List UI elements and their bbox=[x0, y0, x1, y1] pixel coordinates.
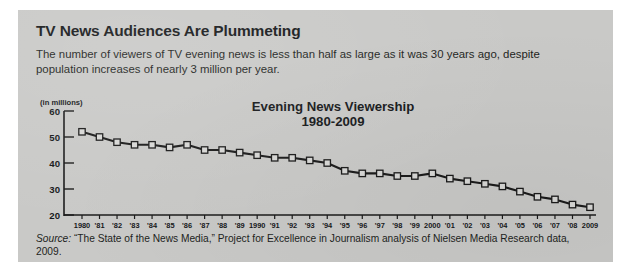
data-point-marker bbox=[236, 149, 242, 155]
data-point-marker bbox=[149, 142, 155, 148]
y-tick-label: 60 bbox=[38, 106, 60, 117]
x-tick-label: '01 bbox=[445, 221, 455, 230]
x-tick-label: '99 bbox=[410, 221, 420, 230]
x-tick-label: '82 bbox=[112, 221, 122, 230]
x-tick-label: '06 bbox=[532, 221, 542, 230]
data-point-marker bbox=[289, 155, 295, 161]
data-point-marker bbox=[534, 194, 540, 200]
x-tick-label: '07 bbox=[550, 221, 560, 230]
data-point-marker bbox=[412, 173, 418, 179]
data-point-marker bbox=[271, 155, 277, 161]
source-label: Source: bbox=[36, 233, 71, 244]
source-text: “The State of the News Media,” Project f… bbox=[36, 233, 569, 257]
infographic-panel: TV News Audiences Are Plummeting The num… bbox=[18, 10, 613, 262]
x-tick-label: 2009 bbox=[582, 221, 598, 230]
y-tick-label: 20 bbox=[38, 210, 60, 221]
x-tick-label: '85 bbox=[165, 221, 175, 230]
x-tick-label: '89 bbox=[235, 221, 245, 230]
x-tick-label: '98 bbox=[392, 221, 402, 230]
x-tick-label: '93 bbox=[305, 221, 315, 230]
data-point-marker bbox=[184, 142, 190, 148]
data-point-marker bbox=[569, 201, 575, 207]
data-point-marker bbox=[447, 175, 453, 181]
data-point-marker bbox=[79, 129, 85, 135]
x-tick-label: 2000 bbox=[424, 221, 440, 230]
data-point-marker bbox=[394, 173, 400, 179]
data-point-marker bbox=[219, 147, 225, 153]
x-tick-label: '08 bbox=[567, 221, 577, 230]
x-tick-label: '05 bbox=[515, 221, 525, 230]
x-tick-label: 1990 bbox=[249, 221, 265, 230]
data-point-marker bbox=[324, 160, 330, 166]
x-tick-label: '95 bbox=[340, 221, 350, 230]
data-point-marker bbox=[307, 157, 313, 163]
data-point-marker bbox=[587, 204, 593, 210]
x-tick-label: '83 bbox=[130, 221, 140, 230]
data-point-marker bbox=[131, 142, 137, 148]
x-tick-label: '96 bbox=[357, 221, 367, 230]
data-point-marker bbox=[517, 188, 523, 194]
x-tick-label: '87 bbox=[200, 221, 210, 230]
data-point-marker bbox=[254, 152, 260, 158]
data-point-marker bbox=[166, 144, 172, 150]
data-point-marker bbox=[201, 147, 207, 153]
x-tick-label: '81 bbox=[95, 221, 105, 230]
y-tick-label: 30 bbox=[38, 184, 60, 195]
x-tick-label: '03 bbox=[480, 221, 490, 230]
data-point-marker bbox=[464, 178, 470, 184]
y-tick-label: 50 bbox=[38, 132, 60, 143]
data-line bbox=[82, 132, 590, 207]
data-point-marker bbox=[499, 183, 505, 189]
x-tick-label: '91 bbox=[270, 221, 280, 230]
data-point-marker bbox=[552, 196, 558, 202]
data-point-marker bbox=[96, 134, 102, 140]
source-note: Source: “The State of the News Media,” P… bbox=[36, 232, 596, 258]
x-tick-label: '92 bbox=[287, 221, 297, 230]
y-tick-label: 40 bbox=[38, 158, 60, 169]
data-point-marker bbox=[377, 170, 383, 176]
x-tick-label: 1980 bbox=[74, 221, 90, 230]
data-point-marker bbox=[342, 168, 348, 174]
line-chart-plot: 20304050601980'81'82'83'84'85'86'87'88'8… bbox=[18, 10, 613, 262]
x-tick-label: '02 bbox=[462, 221, 472, 230]
x-tick-label: '88 bbox=[217, 221, 227, 230]
x-tick-label: '04 bbox=[497, 221, 507, 230]
data-point-marker bbox=[114, 139, 120, 145]
data-point-marker bbox=[359, 170, 365, 176]
x-tick-label: '84 bbox=[147, 221, 157, 230]
x-tick-label: '97 bbox=[375, 221, 385, 230]
x-tick-label: '94 bbox=[322, 221, 332, 230]
data-point-marker bbox=[482, 181, 488, 187]
data-point-marker bbox=[429, 170, 435, 176]
x-tick-label: '86 bbox=[182, 221, 192, 230]
